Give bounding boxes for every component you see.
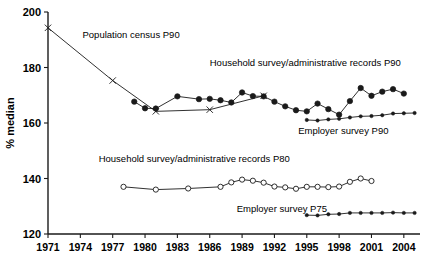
data-point-small: [381, 114, 384, 117]
data-point-small: [391, 112, 394, 115]
x-tick-label: 1992: [263, 241, 287, 253]
data-point-small: [305, 213, 308, 216]
data-point-filled: [175, 94, 180, 99]
y-axis-title: % median: [4, 97, 16, 149]
data-point-small: [348, 211, 351, 214]
data-point-filled: [207, 96, 212, 101]
data-point-open: [358, 176, 363, 181]
data-point-small: [359, 211, 362, 214]
x-tick-label: 1980: [133, 241, 157, 253]
data-point-filled: [401, 91, 406, 96]
data-point-filled: [380, 89, 385, 94]
data-point-small: [413, 211, 416, 214]
data-point-open: [218, 184, 223, 189]
y-tick-label: 140: [23, 173, 41, 185]
x-tick-label: 1998: [327, 241, 351, 253]
x-tick-label: 1989: [230, 241, 254, 253]
x-tick-label: 1995: [295, 241, 319, 253]
data-point-small: [305, 118, 308, 121]
data-point-open: [337, 184, 342, 189]
x-tick-label: 2001: [360, 241, 384, 253]
data-point-filled: [369, 93, 374, 98]
x-tick-label: 1974: [69, 241, 93, 253]
y-tick-label: 180: [23, 62, 41, 74]
x-tick-label: 1971: [36, 241, 60, 253]
data-point-open: [250, 178, 255, 183]
y-tick-label: 120: [23, 228, 41, 240]
data-point-small: [316, 119, 319, 122]
data-point-open: [239, 177, 244, 182]
data-point-open: [347, 179, 352, 184]
data-point-filled: [250, 93, 255, 98]
series-label-1: Population census P90: [83, 29, 180, 40]
data-point-filled: [390, 86, 395, 91]
data-point-small: [381, 211, 384, 214]
series-label-4: Household survey/administrative records …: [99, 153, 290, 164]
data-point-filled: [261, 94, 266, 99]
data-point-small: [327, 213, 330, 216]
data-point-open: [121, 184, 126, 189]
y-tick-label: 200: [23, 6, 41, 18]
data-point-filled: [239, 90, 244, 95]
series-label-3: Employer survey P90: [298, 125, 388, 136]
data-point-small: [316, 214, 319, 217]
data-point-small: [370, 114, 373, 117]
line-chart: 120140160180200 197119741977198019831986…: [0, 0, 431, 261]
data-point-filled: [153, 106, 158, 111]
data-point-open: [315, 184, 320, 189]
data-point-filled: [347, 98, 352, 103]
data-point-small: [391, 211, 394, 214]
data-point-small: [413, 111, 416, 114]
x-tick-label: 1983: [166, 241, 190, 253]
data-point-filled: [142, 106, 147, 111]
data-point-open: [293, 186, 298, 191]
x-tick-label: 1986: [198, 241, 222, 253]
data-point-small: [327, 118, 330, 121]
data-point-small: [348, 116, 351, 119]
data-point-open: [272, 184, 277, 189]
x-tick-label: 1977: [101, 241, 125, 253]
data-point-open: [304, 184, 309, 189]
data-point-filled: [326, 106, 331, 111]
chart-container: 120140160180200 197119741977198019831986…: [0, 0, 431, 261]
y-tick-label: 160: [23, 117, 41, 129]
data-point-filled: [304, 109, 309, 114]
data-point-small: [402, 112, 405, 115]
x-tick-label: 2004: [392, 241, 416, 253]
data-point-open: [229, 180, 234, 185]
data-point-small: [337, 117, 340, 120]
axis-title-group: % median: [4, 97, 16, 149]
data-point-open: [326, 185, 331, 190]
data-point-filled: [315, 101, 320, 106]
data-point-filled: [283, 104, 288, 109]
series-label-2: Household survey/administrative records …: [210, 57, 401, 68]
data-point-open: [186, 186, 191, 191]
data-point-filled: [132, 99, 137, 104]
data-point-open: [369, 178, 374, 183]
data-point-small: [402, 211, 405, 214]
data-point-open: [283, 185, 288, 190]
series-label-5: Employer survey P75: [237, 203, 327, 214]
data-point-filled: [218, 98, 223, 103]
data-point-filled: [293, 108, 298, 113]
data-point-filled: [358, 85, 363, 90]
data-point-small: [370, 211, 373, 214]
data-point-filled: [196, 96, 201, 101]
data-point-small: [337, 212, 340, 215]
data-point-filled: [336, 112, 341, 117]
data-point-open: [261, 180, 266, 185]
data-point-open: [153, 187, 158, 192]
data-point-small: [359, 115, 362, 118]
data-point-filled: [272, 99, 277, 104]
data-point-filled: [229, 100, 234, 105]
